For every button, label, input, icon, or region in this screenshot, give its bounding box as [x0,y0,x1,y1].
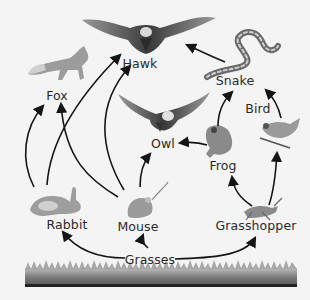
arrow-grasshopper-to-bird [269,153,277,205]
arrow-snake-to-hawk [187,45,225,62]
arrow-rabbit-to-fox [26,106,43,187]
label-snake: Snake [216,73,255,88]
arrow-grasses-to-rabbit [63,232,125,258]
arrow-grasses-to-mouse [142,235,148,248]
label-frog: Frog [209,158,236,173]
arrow-frog-to-snake [218,92,232,126]
label-mouse: Mouse [117,219,158,234]
arrow-grasses-to-grasshopper [175,238,255,259]
label-rabbit: Rabbit [47,217,88,232]
food-web-diagram: Hawk Fox Snake Bird Owl Frog Rabbit Mous… [0,0,310,300]
arrow-grasshopper-to-frog [232,177,252,206]
label-fox: Fox [46,88,68,103]
arrow-mouse-to-hawk [105,66,130,190]
label-bird: Bird [245,101,270,116]
arrow-rabbit-to-hawk [47,55,120,185]
label-grasshopper: Grasshopper [216,218,297,233]
arrow-mouse-to-owl [140,154,150,187]
label-grasses: Grasses [125,252,175,267]
label-owl: Owl [151,136,175,151]
arrow-frog-to-owl [180,142,207,145]
label-hawk: Hawk [123,56,158,71]
